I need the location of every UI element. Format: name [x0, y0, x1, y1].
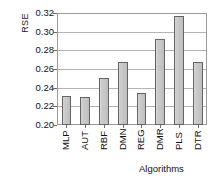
x-axis-tick-label: REG [135, 120, 147, 150]
bar [99, 78, 109, 125]
x-axis-tick-label: RBF [98, 120, 110, 150]
x-axis-tick-label: AUT [79, 120, 91, 150]
x-axis-tick-label: DMR [154, 120, 166, 150]
x-axis-tick-label: PLS [173, 120, 185, 150]
bar [174, 16, 184, 125]
bar-chart: RSE 0.200.220.240.260.280.300.32 MLPAUTR… [0, 0, 217, 180]
x-axis-tick-label: DMN [117, 120, 129, 150]
bar [155, 39, 165, 125]
x-axis-tick-label: MLP [60, 120, 72, 150]
bar [118, 62, 128, 125]
x-axis-category-labels: MLPAUTRBFDMNREGDMRPLSDTR [57, 129, 207, 159]
x-axis-tick-label: DTR [192, 120, 204, 150]
bar [193, 62, 203, 125]
bars-layer [57, 13, 207, 125]
x-axis-title: Algorithms [139, 163, 184, 174]
y-axis-tick-labels: 0.200.220.240.260.280.300.32 [24, 13, 54, 125]
